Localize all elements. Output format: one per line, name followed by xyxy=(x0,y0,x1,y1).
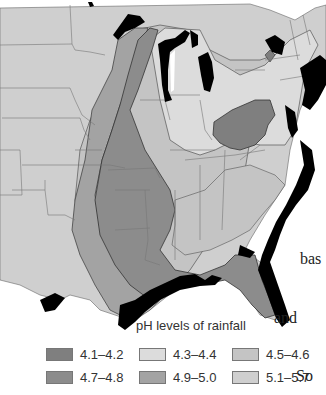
legend-item-4.9-5.0: 4.9–5.0 xyxy=(139,370,216,385)
legend-swatch xyxy=(46,348,73,361)
legend-swatch xyxy=(46,371,73,384)
text-line: So xyxy=(296,366,321,386)
legend-label: 4.3–4.4 xyxy=(173,347,216,362)
text-line: bas xyxy=(300,249,321,269)
text-line: and xyxy=(274,308,321,328)
rainfall-ph-map xyxy=(0,0,326,395)
legend-label: 4.7–4.8 xyxy=(80,370,123,385)
legend-swatch xyxy=(232,348,259,361)
legend-item-4.1-4.2: 4.1–4.2 xyxy=(46,347,123,362)
legend-swatch xyxy=(232,371,259,384)
legend-item-4.7-4.8: 4.7–4.8 xyxy=(46,370,123,385)
legend-swatch xyxy=(139,348,166,361)
legend-item-4.3-4.4: 4.3–4.4 xyxy=(139,347,216,362)
legend-label: 4.1–4.2 xyxy=(80,347,123,362)
cropped-body-text: bas and So aci sc ar p xyxy=(288,210,321,395)
legend-label: 4.9–5.0 xyxy=(173,370,216,385)
legend-swatch xyxy=(139,371,166,384)
legend-title: pH levels of rainfall xyxy=(136,318,246,333)
